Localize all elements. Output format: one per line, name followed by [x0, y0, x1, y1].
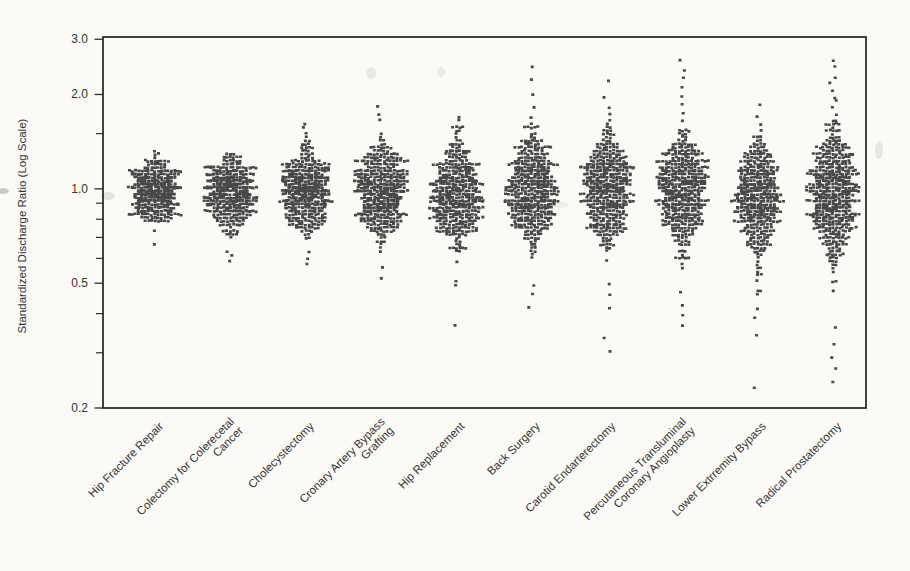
y-axis-tick-labels: 3.02.01.00.50.2	[71, 32, 88, 415]
y-tick-label: 3.0	[71, 32, 88, 46]
scan-artifact	[437, 67, 445, 77]
y-tick-label: 0.2	[71, 401, 88, 415]
beeswarm-cluster-7	[579, 80, 635, 353]
beeswarm-cluster-9	[730, 103, 785, 389]
beeswarm-dots	[127, 59, 861, 389]
beeswarm-cluster-4	[353, 105, 409, 280]
scan-artifact	[366, 67, 376, 79]
beeswarm-cluster-10	[805, 60, 860, 384]
beeswarm-cluster-3	[278, 123, 333, 266]
y-axis-title: Standardized Discharge Ratio (Log Scale)	[16, 118, 28, 333]
beeswarm-cluster-1	[127, 150, 183, 246]
x-category-label: Hip Replacement	[396, 419, 467, 490]
x-category-label: Cholecystectomy	[246, 420, 317, 491]
y-tick-label: 1.0	[71, 182, 88, 196]
scan-artifact	[0, 188, 9, 194]
y-tick-label: 0.5	[71, 276, 88, 290]
scan-artifact	[875, 141, 883, 159]
x-axis-category-labels: Hip Fracture RepairColectomy for Colerec…	[86, 415, 844, 531]
x-category-label: Back Surgery	[485, 420, 542, 477]
figure: 3.02.01.00.50.2 Standardized Discharge R…	[0, 0, 910, 571]
x-category-label: Radical Prostatectomy	[754, 420, 844, 510]
beeswarm-cluster-2	[203, 153, 259, 263]
beeswarm-cluster-8	[654, 59, 710, 327]
y-axis-ticks	[95, 39, 104, 408]
x-category-label: Hip Fracture Repair	[86, 420, 166, 500]
beeswarm-cluster-6	[504, 66, 560, 309]
y-tick-label: 2.0	[71, 87, 88, 101]
beeswarm-chart: 3.02.01.00.50.2 Standardized Discharge R…	[0, 0, 910, 571]
beeswarm-cluster-5	[428, 116, 484, 327]
